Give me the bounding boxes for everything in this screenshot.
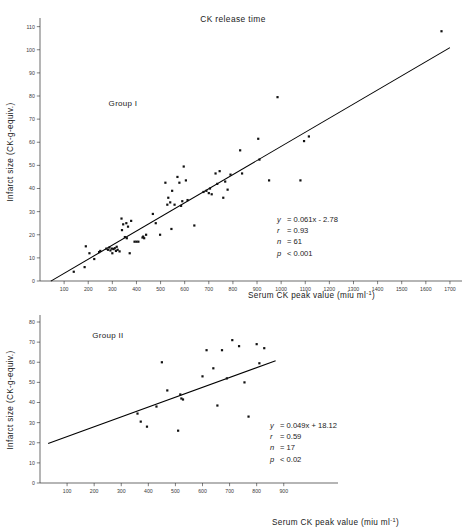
data-point <box>127 226 129 228</box>
data-point <box>440 30 442 32</box>
x-axis-title: Serum CK peak value (miu ml-1) <box>248 290 375 300</box>
data-point <box>212 367 214 369</box>
x-tick-label: 1700 <box>444 286 456 292</box>
data-point <box>211 193 213 195</box>
y-tick-label: 0 <box>32 480 35 486</box>
y-tick-label: 100 <box>26 47 35 53</box>
y-tick-label: 50 <box>29 162 35 168</box>
stat-symbol: n <box>277 237 281 246</box>
chart-panel-group-2: 0102030405060708010020030040050060070080… <box>0 300 469 531</box>
y-tick-label: 40 <box>29 399 35 405</box>
y-tick-label: 30 <box>29 420 35 426</box>
data-point <box>258 158 260 160</box>
stat-symbol: p <box>269 455 274 464</box>
data-point <box>133 241 135 243</box>
data-point <box>146 426 148 428</box>
stat-symbol: p <box>276 249 281 258</box>
data-point <box>124 236 126 238</box>
x-tick-label: 500 <box>171 488 180 494</box>
y-tick-label: 110 <box>27 24 35 30</box>
stat-symbol: r <box>277 226 280 235</box>
data-point <box>205 349 207 351</box>
data-point <box>227 189 229 191</box>
x-tick-label: 700 <box>225 488 234 494</box>
data-point <box>166 204 168 206</box>
data-point <box>137 241 139 243</box>
data-point <box>171 190 173 192</box>
y-axis-title: Infarct size (CK-g-equiv.) <box>6 350 15 449</box>
group-label: Group II <box>92 331 123 340</box>
y-tick-label: 70 <box>29 339 35 345</box>
stat-value: = 0.049x + 18.12 <box>280 421 337 430</box>
data-point <box>180 205 182 207</box>
x-tick-label: 800 <box>252 488 261 494</box>
stat-symbol: r <box>270 432 273 441</box>
data-point <box>84 266 86 268</box>
data-point <box>177 430 179 432</box>
data-point <box>257 138 259 140</box>
data-point <box>219 170 221 172</box>
group-label: Group I <box>109 99 138 108</box>
data-point <box>73 271 75 273</box>
figure-root: 0102030405060708090100110100200300400500… <box>0 0 469 531</box>
data-point <box>155 222 157 224</box>
data-point <box>117 249 119 251</box>
regression-line <box>48 361 276 444</box>
data-point <box>126 237 128 239</box>
stat-symbol: y <box>276 215 282 224</box>
chart-panel-group-1: 0102030405060708090100110100200300400500… <box>0 0 469 300</box>
x-tick-label: 900 <box>279 488 288 494</box>
x-tick-label: 300 <box>117 488 126 494</box>
x-tick-label: 600 <box>180 286 189 292</box>
data-point <box>178 182 180 184</box>
data-point <box>216 404 218 406</box>
data-point <box>268 179 270 181</box>
data-point <box>263 347 265 349</box>
data-point <box>231 339 233 341</box>
x-tick-label: 700 <box>204 286 213 292</box>
data-point <box>170 228 172 230</box>
y-tick-label: 70 <box>29 116 35 122</box>
data-point <box>238 345 240 347</box>
data-point <box>159 234 161 236</box>
y-tick-label: 60 <box>29 139 35 145</box>
y-axis-title: Infarct size (CK-g-equiv.) <box>6 102 15 201</box>
x-axis-title-close: ) <box>396 518 399 527</box>
data-point <box>241 172 243 174</box>
data-point <box>135 241 137 243</box>
y-tick-label: 60 <box>29 359 35 365</box>
data-point <box>118 250 120 252</box>
scatter-plot-group-1: 0102030405060708090100110100200300400500… <box>0 0 469 300</box>
y-tick-label: 10 <box>29 255 35 261</box>
data-point <box>186 199 188 201</box>
data-point <box>167 197 169 199</box>
data-point <box>179 393 181 395</box>
data-point <box>214 172 216 174</box>
data-point <box>88 252 90 254</box>
stat-value: = 0.061x - 2.78 <box>287 215 338 224</box>
data-point <box>107 249 109 251</box>
x-axis-title-close: ) <box>372 291 375 300</box>
x-tick-label: 200 <box>84 286 93 292</box>
y-tick-label: 80 <box>29 93 35 99</box>
data-point <box>136 412 138 414</box>
data-point <box>256 343 258 345</box>
stat-value: = 0.59 <box>280 432 301 441</box>
data-point <box>202 191 204 193</box>
data-point <box>120 217 122 219</box>
data-point <box>205 190 207 192</box>
data-point <box>176 176 178 178</box>
data-point <box>116 246 118 248</box>
data-point <box>130 220 132 222</box>
data-point <box>121 229 123 231</box>
x-tick-label: 1600 <box>420 286 432 292</box>
stat-value: = 0.93 <box>287 226 308 235</box>
data-point <box>143 237 145 239</box>
data-point <box>224 180 226 182</box>
data-point <box>164 182 166 184</box>
data-point <box>85 245 87 247</box>
stat-value: = 61 <box>287 237 302 246</box>
data-point <box>155 405 157 407</box>
y-tick-label: 0 <box>32 278 35 284</box>
chart-title: CK release time <box>200 14 266 24</box>
